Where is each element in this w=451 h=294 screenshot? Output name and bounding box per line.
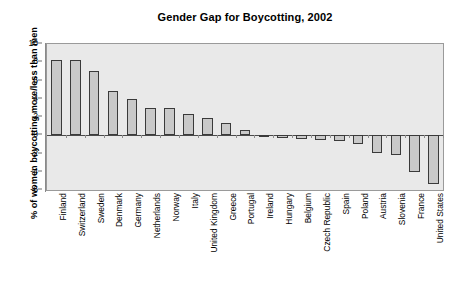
bar — [315, 135, 326, 140]
bar — [353, 135, 364, 144]
plot-area — [46, 43, 444, 191]
x-axis-tick-mark — [85, 135, 86, 138]
x-axis-category-label: France — [417, 193, 425, 219]
x-axis-category-label: Switzerland — [78, 193, 86, 236]
x-axis-category-label: Czech Republic — [323, 193, 331, 252]
bar — [183, 114, 194, 135]
bar — [70, 60, 81, 135]
x-axis-category-label: Ireland — [266, 193, 274, 219]
x-axis-tick-mark — [311, 135, 312, 138]
x-axis-tick-mark — [141, 135, 142, 138]
bar — [277, 135, 288, 138]
y-axis-tick-mark — [38, 43, 42, 44]
bar — [51, 60, 62, 136]
bar — [202, 118, 213, 135]
bar — [259, 135, 270, 137]
x-axis-category-label: Norway — [172, 193, 180, 221]
bar — [391, 135, 402, 155]
bar — [108, 91, 119, 135]
x-axis-tick-mark — [160, 135, 161, 138]
x-axis-tick-mark — [236, 135, 237, 138]
x-axis-tick-mark — [217, 135, 218, 138]
x-axis-tick-mark — [349, 135, 350, 138]
y-axis-tick-labels: 1086420-2-4-6 — [20, 43, 42, 191]
x-axis-category-label: Italy — [191, 193, 199, 208]
x-axis-category-label: Belgium — [304, 193, 312, 223]
y-axis-tick-label: 10 — [28, 38, 38, 48]
x-axis-tick-mark — [198, 135, 199, 138]
x-axis-category-label: United Kingdom — [210, 193, 218, 253]
chart-container: Gender Gap for Boycotting, 2002 % of wom… — [0, 0, 451, 294]
bar — [164, 108, 175, 135]
x-axis-tick-mark — [292, 135, 293, 138]
x-axis-tick-mark — [424, 135, 425, 138]
x-axis-category-label: Slovenia — [398, 193, 406, 225]
x-axis-category-label: Finland — [59, 193, 67, 220]
y-axis-tick-mark — [38, 189, 42, 190]
y-axis-tick-label: -6 — [30, 184, 38, 194]
bar — [240, 130, 251, 135]
x-axis-tick-mark — [122, 135, 123, 138]
x-axis-category-label: Spain — [342, 193, 350, 214]
bar — [428, 135, 439, 183]
bar — [145, 108, 156, 135]
y-axis-tick-mark — [38, 170, 42, 171]
chart-title: Gender Gap for Boycotting, 2002 — [45, 11, 445, 23]
bar — [221, 123, 232, 135]
y-axis-tick-label: -4 — [30, 166, 38, 176]
x-axis-tick-mark — [330, 135, 331, 138]
x-axis-category-label: Netherlands — [153, 193, 161, 238]
bar — [89, 71, 100, 135]
y-axis-tick-mark — [38, 97, 42, 98]
y-axis-tick-mark — [38, 134, 42, 135]
y-axis-tick-label: -2 — [30, 148, 38, 158]
bar — [372, 135, 383, 152]
x-axis-category-label: Sweden — [97, 193, 105, 223]
x-axis-category-label: Poland — [361, 193, 369, 219]
bar — [127, 99, 138, 136]
y-axis-tick-mark — [38, 61, 42, 62]
x-axis-tick-mark — [368, 135, 369, 138]
bar — [296, 135, 307, 139]
bar — [409, 135, 420, 172]
x-axis-tick-mark — [273, 135, 274, 138]
x-axis-tick-mark — [405, 135, 406, 138]
x-axis-category-labels: FinlandSwitzerlandSwedenDenmarkGermanyNe… — [46, 193, 444, 294]
y-axis-tick-mark — [38, 152, 42, 153]
y-axis-tick-mark — [38, 116, 42, 117]
x-axis-tick-mark — [66, 135, 67, 138]
bar — [334, 135, 345, 140]
x-axis-category-label: Germany — [134, 193, 142, 227]
x-axis-category-label: Hungary — [285, 193, 293, 225]
x-axis-tick-mark — [254, 135, 255, 138]
x-axis-category-label: United States — [436, 193, 444, 243]
y-axis-tick-mark — [38, 79, 42, 80]
x-axis-tick-mark — [386, 135, 387, 138]
x-axis-category-label: Austria — [379, 193, 387, 219]
x-axis-category-label: Denmark — [115, 193, 123, 227]
x-axis-category-label: Portugal — [247, 193, 255, 224]
x-axis-tick-mark — [179, 135, 180, 138]
x-axis-tick-mark — [443, 135, 444, 138]
x-axis-tick-mark — [104, 135, 105, 138]
x-axis-category-label: Greece — [229, 193, 237, 220]
